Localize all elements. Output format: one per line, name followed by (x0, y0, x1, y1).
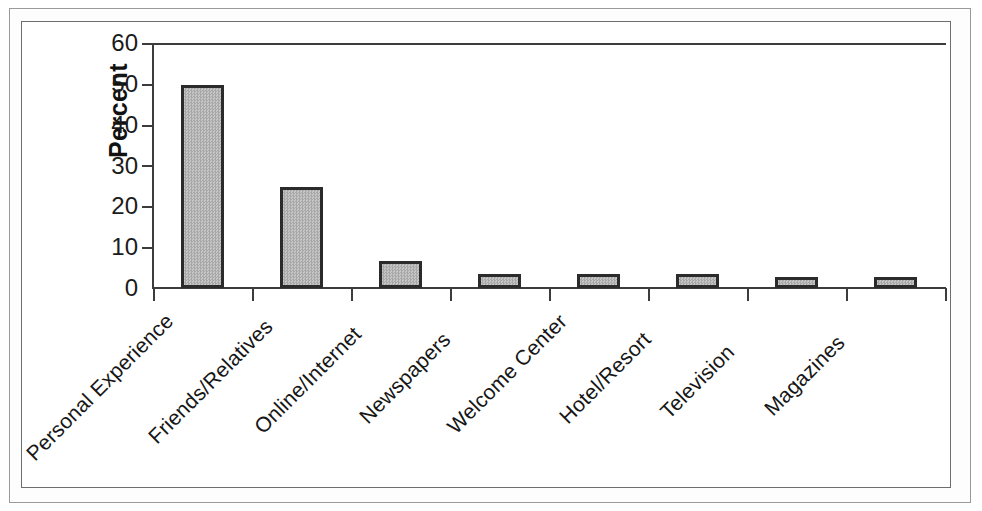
bar-online-internet (379, 261, 422, 288)
bar-personal-experience (181, 85, 224, 288)
x-tick-mark-5 (648, 288, 650, 301)
bar-magazines (874, 277, 917, 288)
y-tick-label-50: 50 (111, 72, 138, 96)
bar-hotel-resort (676, 274, 719, 288)
plot-area (153, 44, 946, 288)
x-tick-mark-6 (747, 288, 749, 301)
bar-friends-relatives (280, 187, 323, 288)
x-tick-mark-0 (153, 288, 155, 301)
figure: Percent 60 50 40 30 20 10 0 Personal Exp (0, 0, 982, 511)
bar-television (775, 277, 818, 288)
x-tick-mark-4 (549, 288, 551, 301)
y-tick-label-40: 40 (111, 113, 138, 137)
x-tick-mark-1 (252, 288, 254, 301)
x-tick-mark-7 (846, 288, 848, 301)
x-tick-mark-3 (450, 288, 452, 301)
x-tick-mark-8 (945, 288, 947, 301)
y-tick-label-10: 10 (111, 235, 138, 259)
bar-newspapers (478, 274, 521, 288)
x-tick-mark-2 (351, 288, 353, 301)
y-tick-label-20: 20 (111, 194, 138, 218)
y-tick-label-30: 30 (111, 154, 138, 178)
y-tick-label-60: 60 (111, 31, 138, 55)
bar-welcome-center (577, 274, 620, 288)
y-tick-label-0: 0 (125, 276, 138, 300)
